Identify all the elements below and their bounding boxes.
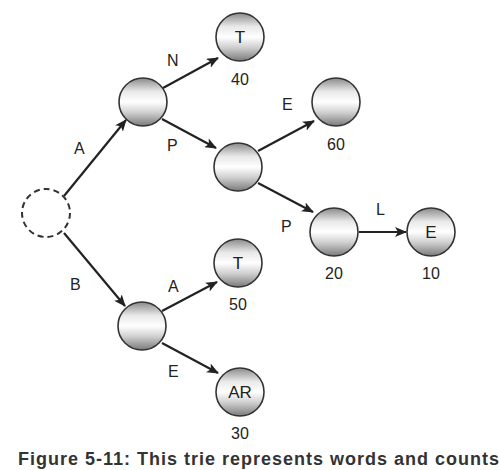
- edge-label: E: [282, 96, 293, 113]
- edge-AP-P: [258, 183, 313, 212]
- edge-label: A: [168, 278, 179, 295]
- node-BA: T 50: [214, 239, 262, 313]
- node-letter: T: [233, 254, 243, 273]
- edge-root-B: [64, 233, 125, 306]
- edge-label: E: [168, 363, 179, 380]
- node-BE: AR 30: [216, 368, 264, 442]
- edge-label: N: [167, 52, 179, 69]
- edge-label: L: [376, 201, 385, 218]
- node-B: [118, 302, 166, 350]
- edge-AP-E: [258, 121, 314, 151]
- node-count: 40: [231, 71, 249, 88]
- node-count: 10: [422, 265, 440, 282]
- figure-caption: Figure 5-11: This trie represents words …: [18, 449, 500, 470]
- node-count: 30: [231, 425, 249, 442]
- edge-label: A: [74, 140, 85, 157]
- edge-label: P: [281, 218, 292, 235]
- node-letter: E: [425, 223, 436, 242]
- root-node: [22, 189, 70, 237]
- edge-label: P: [167, 137, 178, 154]
- edge-label: B: [70, 276, 81, 293]
- node-count: 20: [325, 265, 343, 282]
- node-letter: T: [235, 28, 245, 47]
- node-letter: AR: [228, 383, 252, 402]
- node-A: [119, 78, 167, 126]
- node-AP: [214, 143, 262, 191]
- edge-root-A: [64, 120, 126, 196]
- node-count: 60: [327, 136, 345, 153]
- node-APE: 60: [312, 78, 360, 153]
- node-count: 50: [229, 296, 247, 313]
- node-APP: 20: [310, 208, 358, 282]
- node-APPL: E 10: [407, 208, 455, 282]
- node-AN: T 40: [216, 13, 264, 88]
